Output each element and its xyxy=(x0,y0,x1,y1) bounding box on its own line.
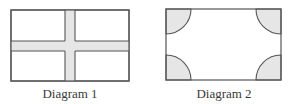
diagram-1-horizontal-band xyxy=(11,41,129,51)
diagram-1-caption: Diagram 1 xyxy=(42,87,97,101)
diagram-2-caption: Diagram 2 xyxy=(196,87,251,101)
diagram-1 xyxy=(11,10,129,81)
figure: Diagram 1 Diagram 2 xyxy=(0,0,293,104)
diagram-2 xyxy=(166,9,281,80)
